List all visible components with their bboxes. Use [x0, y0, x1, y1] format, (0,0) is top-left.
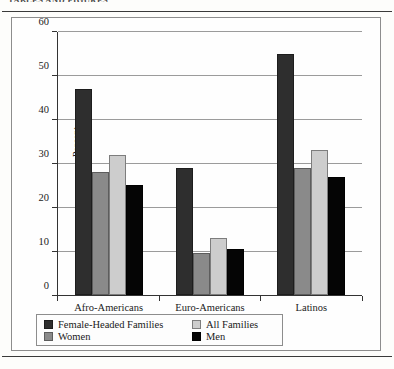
y-tick — [52, 251, 57, 252]
y-tick — [52, 31, 57, 32]
y-tick-label: 50 — [39, 60, 50, 71]
legend-swatch-icon — [192, 320, 201, 329]
y-tick — [52, 207, 57, 208]
bar — [311, 150, 328, 295]
bar — [176, 168, 193, 295]
x-tick — [57, 296, 58, 301]
figure-frame: Percent 0102030405060 Afro-AmericansEuro… — [11, 17, 381, 351]
y-tick — [52, 119, 57, 120]
bar-group: Afro-Americans — [58, 32, 159, 295]
footer-rule — [2, 356, 392, 357]
bar — [92, 172, 109, 295]
bar — [294, 168, 311, 295]
bar — [75, 89, 92, 295]
legend-label: All Families — [206, 319, 258, 330]
x-tick — [260, 296, 261, 301]
header-rule — [2, 11, 392, 12]
legend-item: All Families — [192, 318, 275, 330]
x-category-label: Euro-Americans — [175, 302, 244, 313]
legend-swatch-icon — [44, 320, 53, 329]
bar — [328, 177, 345, 295]
legend-label: Women — [58, 331, 90, 342]
y-tick — [52, 163, 57, 164]
figure-page: TABLES AND FIGURES Percent 0102030405060… — [0, 0, 394, 369]
bar-groups: Afro-AmericansEuro-AmericansLatinos — [58, 32, 362, 295]
y-tick-label: 40 — [39, 104, 50, 115]
legend-item: Women — [44, 330, 192, 342]
legend-label: Female-Headed Families — [58, 319, 163, 330]
legend-grid: Female-Headed FamiliesAll FamiliesWomenM… — [44, 318, 275, 342]
bar-group: Euro-Americans — [159, 32, 260, 295]
legend-item: Female-Headed Families — [44, 318, 192, 330]
x-category-label: Afro-Americans — [74, 302, 143, 313]
bar — [193, 253, 210, 295]
y-tick-label: 60 — [39, 16, 50, 27]
bar — [109, 155, 126, 295]
bar — [277, 54, 294, 295]
bar — [126, 185, 143, 295]
y-tick — [52, 75, 57, 76]
plot-wrapper: Percent 0102030405060 Afro-AmericansEuro… — [57, 32, 362, 296]
plot-area: 0102030405060 Afro-AmericansEuro-America… — [57, 32, 362, 296]
y-tick-label: 0 — [44, 280, 49, 291]
running-head: TABLES AND FIGURES — [8, 0, 108, 2]
x-tick — [362, 296, 363, 301]
x-tick — [159, 296, 160, 301]
bar — [210, 238, 227, 295]
legend-swatch-icon — [44, 332, 53, 341]
bar-group: Latinos — [261, 32, 362, 295]
gridline — [58, 295, 362, 296]
y-tick-label: 10 — [39, 236, 50, 247]
y-tick-label: 30 — [39, 148, 50, 159]
x-category-label: Latinos — [296, 302, 328, 313]
legend-item: Men — [192, 330, 275, 342]
legend-label: Men — [206, 331, 225, 342]
chart-legend: Female-Headed FamiliesAll FamiliesWomenM… — [36, 314, 283, 346]
legend-swatch-icon — [192, 332, 201, 341]
bar — [227, 249, 244, 295]
y-tick-label: 20 — [39, 192, 50, 203]
